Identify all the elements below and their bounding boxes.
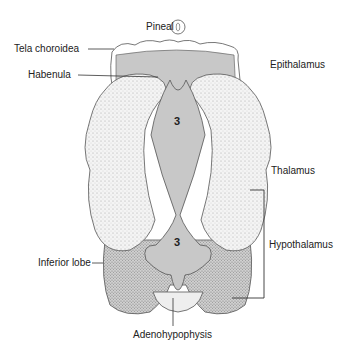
left-thalamus	[85, 74, 166, 251]
ventricle-number-lower: 3	[174, 236, 180, 248]
label-epithalamus: Epithalamus	[270, 59, 325, 71]
label-adenohypophysis: Adenohypophysis	[133, 329, 212, 341]
right-thalamus	[190, 74, 271, 251]
ventricle-number-upper: 3	[174, 115, 180, 127]
label-hypothalamus: Hypothalamus	[269, 239, 333, 251]
label-thalamus: Thalamus	[271, 165, 315, 177]
adenohypophysis	[153, 292, 203, 312]
label-habenula: Habenula	[28, 69, 71, 81]
label-tela-choroidea: Tela choroidea	[14, 43, 79, 55]
label-pineal: Pineal	[146, 21, 174, 33]
third-ventricle	[145, 80, 212, 290]
label-inferior-lobe: Inferior lobe	[38, 257, 91, 269]
